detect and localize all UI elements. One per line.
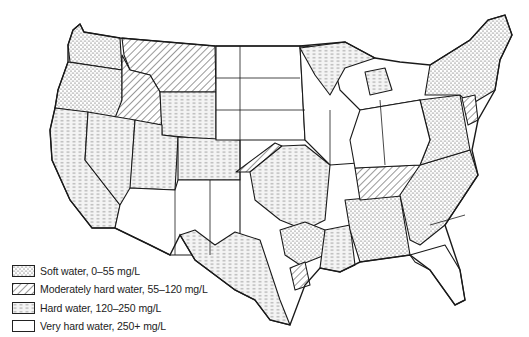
dash-swatch-icon: [12, 302, 35, 314]
legend-item-very-hard: Very hard water, 250+ mg/L: [12, 318, 208, 335]
legend-item-moderate: Moderately hard water, 55–120 mg/L: [12, 281, 208, 298]
stipple-swatch-icon: [12, 265, 35, 277]
region-deep-south: [345, 195, 410, 262]
legend-label: Soft water, 0–55 mg/L: [40, 265, 140, 277]
region-texas-coast-moderate: [290, 262, 310, 290]
legend-label: Moderately hard water, 55–120 mg/L: [40, 283, 208, 295]
region-dakotas-nebraska: [216, 46, 305, 140]
legend-label: Hard water, 120–250 mg/L: [40, 302, 161, 314]
blank-swatch-icon: [12, 320, 35, 332]
hatch-swatch-icon: [12, 283, 35, 295]
region-east-texas-soft: [280, 222, 325, 265]
legend-item-hard: Hard water, 120–250 mg/L: [12, 299, 208, 316]
region-louisiana: [320, 225, 355, 272]
region-wyoming: [160, 92, 216, 140]
region-ohio-valley: [350, 100, 430, 168]
legend-label: Very hard water, 250+ mg/L: [40, 320, 166, 332]
map-legend: Soft water, 0–55 mg/L Moderately hard wa…: [12, 262, 208, 336]
region-florida: [410, 245, 465, 305]
region-lower-michigan: [365, 68, 392, 95]
legend-item-soft: Soft water, 0–55 mg/L: [12, 262, 208, 279]
region-colorado: [178, 137, 240, 180]
